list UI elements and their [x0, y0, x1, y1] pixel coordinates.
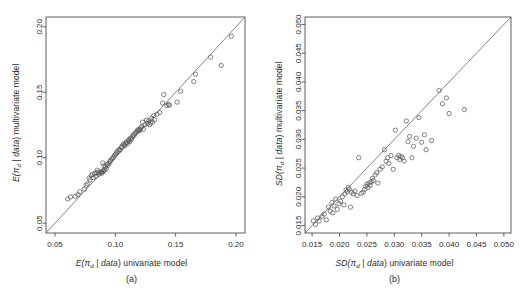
svg-text:0.15: 0.15 [35, 84, 44, 100]
svg-text:0.050: 0.050 [494, 240, 515, 249]
svg-text:0.15: 0.15 [168, 240, 184, 249]
svg-text:0.20: 0.20 [228, 240, 244, 249]
panel-b-y-axis-label: SD(πd | data) multivariate model [274, 61, 285, 186]
svg-text:0.020: 0.020 [330, 240, 351, 249]
svg-text:0.015: 0.015 [294, 215, 303, 236]
data-points [66, 34, 234, 201]
svg-text:0.10: 0.10 [108, 240, 124, 249]
panel-a-caption: (a) [0, 274, 263, 284]
svg-text:0.025: 0.025 [294, 158, 303, 179]
svg-text:0.030: 0.030 [294, 129, 303, 150]
svg-text:0.20: 0.20 [35, 18, 44, 34]
panel-b-caption: (b) [263, 274, 526, 284]
panel-a-x-axis-label: E(πd | data) univariate model [0, 258, 263, 269]
svg-text:0.10: 0.10 [35, 149, 44, 165]
data-points [311, 88, 467, 226]
panel-a-y-axis-label: E(πd | data) multivariate model [11, 64, 22, 182]
svg-text:0.040: 0.040 [294, 71, 303, 92]
svg-text:0.050: 0.050 [294, 14, 303, 35]
figure-container: 0.050.100.150.200.050.100.150.20 E(πd | … [0, 0, 527, 293]
svg-text:0.05: 0.05 [35, 215, 44, 231]
panel-b-plot: 0.0150.0200.0250.0300.0350.0400.0450.050… [263, 0, 526, 293]
panel-b: 0.0150.0200.0250.0300.0350.0400.0450.050… [263, 0, 526, 293]
svg-text:0.040: 0.040 [439, 240, 460, 249]
svg-text:0.05: 0.05 [47, 240, 63, 249]
svg-text:0.035: 0.035 [294, 100, 303, 121]
svg-text:0.045: 0.045 [466, 240, 487, 249]
svg-text:0.030: 0.030 [384, 240, 405, 249]
svg-text:0.045: 0.045 [294, 43, 303, 64]
svg-text:0.020: 0.020 [294, 186, 303, 207]
panel-a: 0.050.100.150.200.050.100.150.20 E(πd | … [0, 0, 263, 293]
panel-a-plot: 0.050.100.150.200.050.100.150.20 [0, 0, 263, 293]
svg-text:0.035: 0.035 [412, 240, 433, 249]
svg-text:0.025: 0.025 [357, 240, 378, 249]
svg-text:0.015: 0.015 [302, 240, 323, 249]
panel-b-x-axis-label: SD(πd | data) univariate model [263, 258, 526, 269]
